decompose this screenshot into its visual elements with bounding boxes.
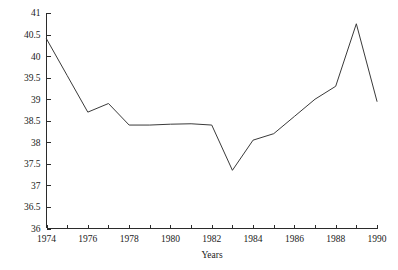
data-line-series-1 (47, 24, 378, 171)
x-tick-label: 1976 (78, 234, 97, 244)
y-tick-label: 41 (31, 8, 41, 18)
y-tick-label: 39.5 (24, 73, 41, 83)
x-tick-label: 1988 (326, 234, 345, 244)
x-tick-label: 1978 (120, 234, 139, 244)
y-tick-label: 37.5 (24, 159, 41, 169)
x-tick-marks (48, 225, 378, 229)
y-tick-label: 36 (31, 224, 41, 234)
x-tick-label: 1980 (161, 234, 180, 244)
x-tick-label: 1974 (37, 234, 56, 244)
chart-canvas: 3636.53737.53838.53939.54040.541 1974197… (0, 0, 398, 270)
x-tick-label: 1986 (285, 234, 304, 244)
x-tick-labels: 197419761978198019821984198619881990 (37, 234, 387, 244)
y-tick-label: 37 (31, 181, 41, 191)
y-tick-label: 39 (31, 95, 41, 105)
y-tick-label: 40 (31, 52, 41, 62)
y-tick-labels: 3636.53737.53838.53939.54040.541 (24, 8, 41, 234)
x-tick-label: 1984 (244, 234, 263, 244)
y-tick-label: 40.5 (24, 30, 41, 40)
line-chart: 3636.53737.53838.53939.54040.541 1974197… (0, 0, 398, 270)
y-tick-label: 36.5 (24, 202, 41, 212)
x-axis-group: 197419761978198019821984198619881990 (37, 225, 387, 244)
x-tick-label: 1982 (202, 234, 221, 244)
y-tick-label: 38 (31, 138, 41, 148)
y-axis-group: 3636.53737.53838.53939.54040.541 (24, 8, 51, 234)
data-series-group (47, 24, 378, 171)
x-tick-label: 1990 (368, 234, 387, 244)
x-axis-title: Years (201, 250, 223, 260)
y-tick-label: 38.5 (24, 116, 41, 126)
